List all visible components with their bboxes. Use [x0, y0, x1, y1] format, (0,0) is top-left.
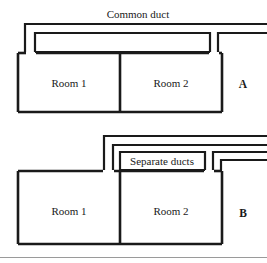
- panel-a-room1-label: Room 1: [51, 77, 86, 89]
- panel-a-duct-inner-line: [35, 33, 210, 52]
- panel-b-letter: B: [239, 207, 247, 219]
- panel-b-caption: Separate ducts: [130, 155, 194, 167]
- panel-b-room1-label: Room 1: [51, 205, 86, 217]
- panel-b: Separate ducts Room 1 Room 2 B: [18, 136, 267, 244]
- panel-b-room2-label: Room 2: [153, 205, 188, 217]
- panel-a-duct-outer-line: [25, 24, 267, 52]
- panel-a-letter: A: [239, 78, 248, 90]
- panel-b-duct4-line: [221, 160, 267, 170]
- panel-a-caption: Common duct: [107, 8, 170, 20]
- panel-a-duct-right-branch: [218, 33, 267, 52]
- panel-a: Common duct Room 1 Room 2 A: [18, 8, 267, 112]
- duct-system-diagram: Common duct Room 1 Room 2 A Separate: [0, 0, 267, 263]
- panel-a-room2-label: Room 2: [153, 77, 188, 89]
